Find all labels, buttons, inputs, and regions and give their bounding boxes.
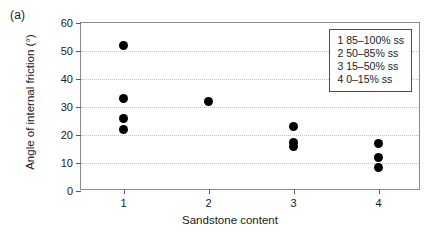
legend-entry-2: 2 50–85% ss <box>337 47 404 60</box>
gridline-y-10 <box>81 163 419 164</box>
x-tick-mark-1 <box>124 189 125 194</box>
data-point <box>374 153 383 162</box>
legend-entry-4: 4 0–15% ss <box>337 73 404 86</box>
gridline-y-20 <box>81 135 419 136</box>
figure-panel-a: (a) Angle of internal friction (°) Sands… <box>0 0 436 246</box>
data-point <box>119 41 128 50</box>
x-tick-mark-3 <box>294 189 295 194</box>
legend-box: 1 85–100% ss2 50–85% ss3 15–50% ss4 0–15… <box>329 29 412 92</box>
data-point <box>289 122 298 131</box>
x-tick-label-4: 4 <box>375 197 381 209</box>
data-point <box>119 94 128 103</box>
y-tick-mark-50 <box>76 51 81 52</box>
y-tick-label-50: 50 <box>61 45 73 57</box>
y-tick-label-20: 20 <box>61 129 73 141</box>
x-axis-title: Sandstone content <box>80 214 380 226</box>
panel-label: (a) <box>10 8 25 22</box>
y-tick-label-30: 30 <box>61 101 73 113</box>
y-tick-mark-40 <box>76 79 81 80</box>
legend-entry-3: 3 15–50% ss <box>337 60 404 73</box>
y-axis-title: Angle of internal friction (°) <box>24 17 36 187</box>
data-point <box>289 142 298 151</box>
x-tick-label-2: 2 <box>205 197 211 209</box>
y-tick-label-40: 40 <box>61 73 73 85</box>
y-tick-mark-10 <box>76 163 81 164</box>
y-tick-mark-60 <box>76 23 81 24</box>
data-point <box>204 97 213 106</box>
data-point <box>119 114 128 123</box>
legend-entry-1: 1 85–100% ss <box>337 34 404 47</box>
x-tick-mark-4 <box>379 189 380 194</box>
y-tick-label-60: 60 <box>61 17 73 29</box>
x-tick-label-3: 3 <box>290 197 296 209</box>
x-tick-mark-2 <box>209 189 210 194</box>
y-tick-mark-30 <box>76 107 81 108</box>
plot-area: 0102030405060 1234 1 85–100% ss2 50–85% … <box>80 22 420 190</box>
y-tick-mark-20 <box>76 135 81 136</box>
data-point <box>374 139 383 148</box>
data-point <box>119 125 128 134</box>
data-point <box>374 163 383 172</box>
y-tick-label-0: 0 <box>67 185 73 197</box>
gridline-y-30 <box>81 107 419 108</box>
x-tick-label-1: 1 <box>120 197 126 209</box>
y-tick-label-10: 10 <box>61 157 73 169</box>
y-tick-mark-0 <box>76 191 81 192</box>
